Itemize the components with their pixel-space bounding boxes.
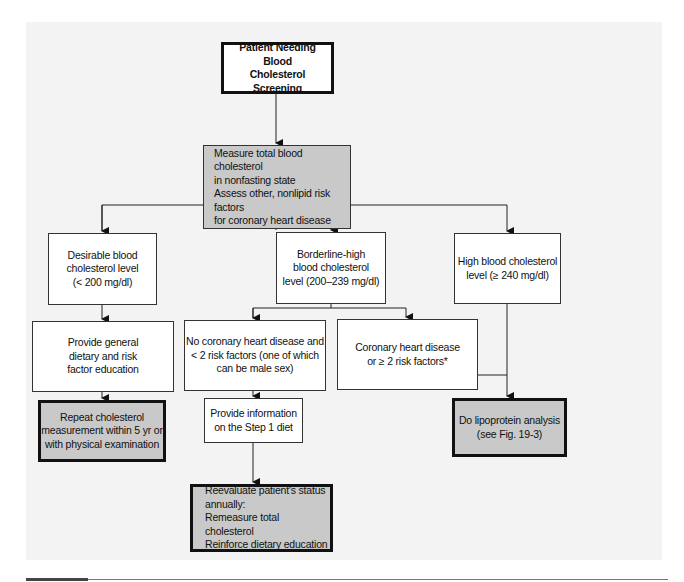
- node-measure: Measure total blood cholesterol in nonfa…: [203, 145, 351, 229]
- node-step1: Provide information on the Step 1 diet: [204, 398, 303, 443]
- node-measure-text: Measure total blood cholesterol in nonfa…: [214, 147, 350, 228]
- node-high-text: High blood cholesterol level (≥ 240 mg/d…: [458, 255, 558, 282]
- node-no-chd: No coronary heart disease and < 2 risk f…: [184, 320, 326, 391]
- node-chd: Coronary heart disease or ≥ 2 risk facto…: [337, 319, 478, 390]
- node-desirable: Desirable blood cholesterol level (< 200…: [48, 233, 157, 305]
- node-borderline: Borderline-high blood cholesterol level …: [276, 232, 386, 304]
- node-start: Patient Needing Blood Cholesterol Screen…: [221, 42, 334, 94]
- node-general-education: Provide general dietary and risk factor …: [32, 321, 174, 392]
- node-lipoprotein: Do lipoprotein analysis (see Fig. 19-3): [452, 398, 567, 457]
- bottom-rule: [26, 579, 668, 580]
- node-general-education-text: Provide general dietary and risk factor …: [67, 336, 139, 377]
- bottom-rule-accent: [26, 578, 88, 581]
- node-borderline-text: Borderline-high blood cholesterol level …: [283, 248, 380, 289]
- node-repeat: Repeat cholesterol measurement within 5 …: [38, 400, 166, 462]
- node-reevaluate: Reevaluate patient's status annually: Re…: [190, 484, 333, 552]
- node-chd-text: Coronary heart disease or ≥ 2 risk facto…: [355, 341, 460, 368]
- node-desirable-text: Desirable blood cholesterol level (< 200…: [67, 249, 139, 290]
- node-start-text: Patient Needing Blood Cholesterol Screen…: [224, 41, 331, 95]
- node-reevaluate-text: Reevaluate patient's status annually: Re…: [205, 484, 330, 552]
- node-no-chd-text: No coronary heart disease and < 2 risk f…: [186, 335, 324, 376]
- node-lipoprotein-text: Do lipoprotein analysis (see Fig. 19-3): [459, 414, 560, 441]
- node-high: High blood cholesterol level (≥ 240 mg/d…: [454, 233, 561, 304]
- node-repeat-text: Repeat cholesterol measurement within 5 …: [41, 411, 162, 452]
- node-step1-text: Provide information on the Step 1 diet: [210, 407, 297, 434]
